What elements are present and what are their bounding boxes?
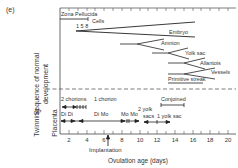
label-yolk-sac: Yolk sac xyxy=(185,50,206,56)
svg-text:8: 8 xyxy=(120,137,124,143)
bar-chorions xyxy=(62,105,86,109)
panel-label: (e) xyxy=(6,6,15,14)
y-label-placenta: Placenta xyxy=(51,109,58,136)
bar-conjoined xyxy=(161,103,184,107)
bar-yolk-sac xyxy=(152,48,189,59)
label-vessels: Vessels xyxy=(211,69,230,75)
label-one-chorion: 1 chorion xyxy=(94,96,117,102)
label-cell-counts: 1 5 8 xyxy=(76,23,88,29)
label-di-di: Di Di xyxy=(61,111,73,117)
y-label-twinning: Twinning xyxy=(33,109,41,137)
svg-text:14: 14 xyxy=(172,137,179,143)
label-conjoined: Conjoined xyxy=(161,96,186,102)
label-one-yolk-sac: 1 yolk sac xyxy=(157,113,182,119)
svg-text:18: 18 xyxy=(207,137,214,143)
bar-amnion xyxy=(120,39,164,50)
label-zona-pellucida: Zona Pellucida xyxy=(61,11,98,17)
label-amnion: Amnion xyxy=(161,40,180,46)
label-di-mo: Di Mo xyxy=(94,111,108,117)
development-timeline-diagram: (e) Sequence of normal development Twinn… xyxy=(0,0,238,168)
label-mo-mo: Mo Mo xyxy=(121,111,138,117)
x-axis-tick-labels: 2 4 6 8 10 12 14 16 18 20 xyxy=(67,137,232,143)
svg-text:10: 10 xyxy=(137,137,144,143)
svg-text:4: 4 xyxy=(85,137,89,143)
y-label-sequence-line1: Sequence of normal xyxy=(33,52,41,115)
svg-text:16: 16 xyxy=(190,137,197,143)
svg-text:6: 6 xyxy=(102,137,106,143)
label-two-yolk-line1: 2 yolk xyxy=(138,106,153,112)
svg-text:12: 12 xyxy=(154,137,161,143)
bar-placenta-types xyxy=(61,119,139,123)
bar-yolk-sacs xyxy=(144,120,170,124)
y-label-sequence-line2: development xyxy=(42,64,50,104)
svg-text:2: 2 xyxy=(67,137,71,143)
label-implantation: Implantation xyxy=(89,147,122,153)
label-two-chorions: 2 chorions xyxy=(61,96,87,102)
label-allantois: Allantois xyxy=(200,60,221,66)
implantation-arrow-icon xyxy=(107,135,110,146)
x-axis-ticks xyxy=(69,130,228,134)
label-cells: Cells xyxy=(92,18,104,24)
label-two-yolk-line2: sacs xyxy=(143,113,155,119)
x-axis-title: Ovulation age (days) xyxy=(108,157,168,165)
label-primitive-streak: Primitive streak xyxy=(168,76,206,82)
label-embryo: Embryo xyxy=(169,29,188,35)
svg-text:20: 20 xyxy=(225,137,232,143)
